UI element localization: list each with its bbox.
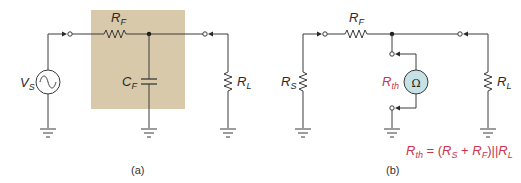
- resistor-icon: [224, 72, 232, 91]
- terminal-icon: [68, 32, 72, 36]
- panel-b: RS RF Ω Rth: [281, 10, 513, 176]
- vs-label: VS: [20, 75, 35, 92]
- arrow-icon: [62, 32, 67, 37]
- thevenin-formula: Rth = (RS + RF)||RL: [406, 143, 513, 160]
- panel-a: VS RF CF RL (a): [20, 10, 251, 176]
- resistor-icon: [299, 72, 307, 91]
- arrow-icon: [395, 52, 400, 57]
- circuit-diagram: VS RF CF RL (a): [0, 0, 521, 183]
- rl-label: RL: [497, 74, 511, 91]
- arrow-icon: [395, 106, 400, 111]
- ground-icon: [40, 129, 56, 137]
- rs-label: RS: [281, 74, 296, 91]
- ground-icon: [384, 129, 400, 137]
- caption-a: (a): [131, 164, 144, 176]
- terminal-icon: [390, 106, 394, 110]
- rl-label: RL: [237, 74, 251, 91]
- resistor-icon: [345, 30, 367, 38]
- ground-icon: [480, 129, 496, 137]
- resistor-icon: [484, 72, 492, 91]
- filter-box: [91, 10, 185, 109]
- ohm-symbol: Ω: [411, 77, 420, 90]
- ohmmeter-icon: Ω: [404, 70, 428, 94]
- ground-icon: [220, 129, 236, 137]
- terminal-icon: [203, 32, 207, 36]
- arrow-icon: [317, 32, 322, 37]
- ground-icon: [141, 129, 157, 137]
- arrow-icon: [208, 32, 213, 37]
- terminal-icon: [323, 32, 327, 36]
- terminal-icon: [390, 52, 394, 56]
- ground-icon: [295, 129, 311, 137]
- terminal-icon: [458, 32, 462, 36]
- arrow-icon: [463, 32, 468, 37]
- rf-label: RF: [349, 10, 364, 27]
- rth-label: Rth: [382, 74, 399, 91]
- ac-source-icon: [36, 70, 60, 94]
- caption-b: (b): [386, 164, 399, 176]
